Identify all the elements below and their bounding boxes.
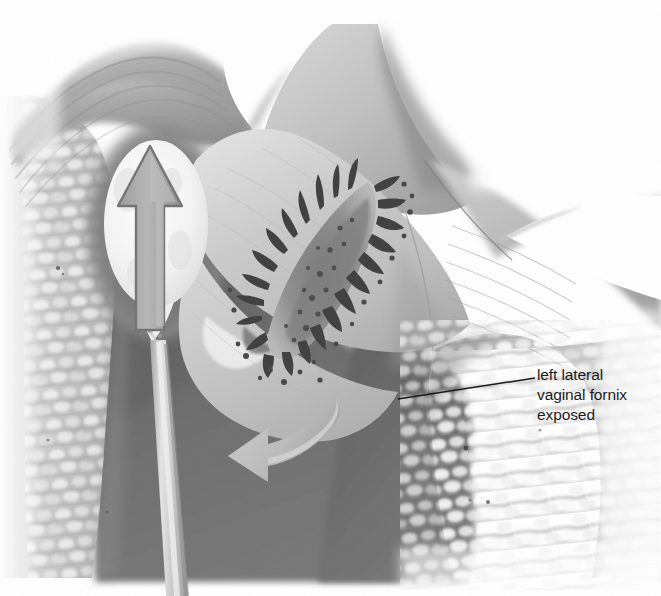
- callout-line-2: vaginal fornix: [537, 385, 661, 405]
- medical-illustration: [0, 0, 661, 596]
- figure-container: (b): [0, 0, 661, 596]
- callout-left-lateral-fornix: left lateral vaginal fornix exposed: [537, 365, 661, 425]
- callout-line-1: left lateral: [537, 365, 661, 385]
- paper-grain: [0, 0, 661, 596]
- callout-line-3: exposed: [537, 405, 661, 425]
